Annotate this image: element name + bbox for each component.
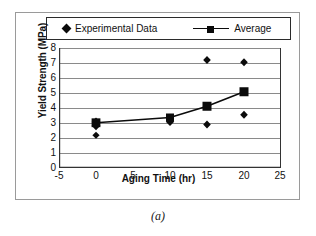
y-tick-label: 2: [42, 133, 56, 143]
figure-caption: (a): [0, 209, 316, 224]
chart-canvas: [59, 48, 281, 168]
data-point-diamond: [92, 132, 99, 139]
figure-root: Experimental Data Average Yield Strength…: [0, 0, 316, 236]
data-point-square: [240, 87, 249, 96]
figure-frame: Experimental Data Average Yield Strength…: [15, 12, 300, 200]
y-tick-label: 5: [42, 88, 56, 98]
legend-item-average: Average: [193, 24, 271, 34]
legend-label-experimental-data: Experimental Data: [75, 24, 157, 34]
plot-area: [59, 48, 281, 168]
experimental-data-points: [92, 56, 248, 139]
square-marker-icon: [207, 26, 214, 33]
diamond-marker-icon: [62, 24, 72, 34]
chart-legend: Experimental Data Average: [46, 17, 291, 40]
legend-label-average: Average: [234, 24, 271, 34]
y-tick-label: 8: [42, 43, 56, 53]
data-point-diamond: [203, 121, 211, 129]
data-point-diamond: [240, 111, 248, 119]
data-point-diamond: [240, 58, 248, 66]
y-tick-label: 3: [42, 118, 56, 128]
data-point-square: [92, 118, 101, 127]
y-tick-label: 6: [42, 73, 56, 83]
data-point-square: [203, 102, 212, 111]
y-tick-label: 4: [42, 103, 56, 113]
y-tick-label: 7: [42, 58, 56, 68]
data-point-diamond: [203, 56, 211, 64]
y-axis-tick-labels: 8 7 6 5 4 3 2 1 0: [40, 48, 56, 168]
x-axis-title: Aging Time (hr): [16, 173, 301, 184]
data-point-square: [166, 114, 174, 122]
y-tick-label: 1: [42, 148, 56, 158]
square-line-marker-icon: [193, 24, 229, 33]
gridlines: [59, 49, 281, 154]
legend-item-experimental-data: Experimental Data: [63, 24, 157, 34]
